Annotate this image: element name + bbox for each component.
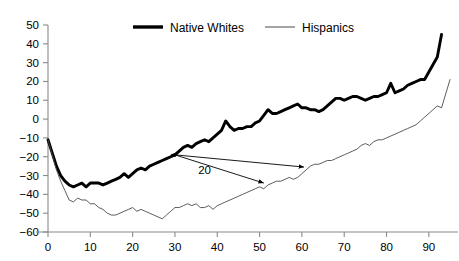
x-tick-label: 90 — [422, 241, 435, 253]
x-tick-label: 30 — [169, 241, 182, 253]
x-tick-label: 20 — [126, 241, 139, 253]
annotation-group: 20 — [175, 155, 304, 183]
y-tick-label: 50 — [26, 19, 39, 31]
chart-container: −60−50−40−30−20−1001020304050 0102030405… — [0, 0, 459, 261]
legend-label-1: Native Whites — [170, 21, 244, 35]
y-axis: −60−50−40−30−20−1001020304050 — [19, 19, 48, 238]
y-tick-label: −40 — [19, 188, 39, 200]
x-tick-label: 80 — [380, 241, 393, 253]
x-axis-ticks: 0102030405060708090 — [45, 232, 435, 253]
x-tick-label: 40 — [211, 241, 224, 253]
annotation-label: 20 — [198, 164, 211, 176]
x-tick-label: 70 — [338, 241, 351, 253]
chart-legend: Native WhitesHispanics — [133, 21, 354, 35]
x-tick-label: 50 — [253, 241, 266, 253]
y-axis-ticks: −60−50−40−30−20−1001020304050 — [19, 19, 48, 238]
x-tick-label: 60 — [295, 241, 308, 253]
series-line-2 — [48, 80, 450, 219]
y-tick-label: 30 — [26, 57, 39, 69]
x-axis: 0102030405060708090 — [36, 232, 458, 253]
y-tick-label: −30 — [19, 170, 39, 182]
y-tick-label: 20 — [26, 75, 39, 87]
x-tick-label: 0 — [45, 241, 51, 253]
y-tick-label: 10 — [26, 94, 39, 106]
legend-label-2: Hispanics — [302, 21, 354, 35]
data-series-group — [48, 34, 450, 218]
y-tick-label: 0 — [33, 113, 39, 125]
x-tick-label: 10 — [84, 241, 97, 253]
y-tick-label: −10 — [19, 132, 39, 144]
line-chart: −60−50−40−30−20−1001020304050 0102030405… — [0, 0, 459, 261]
series-line-1 — [48, 34, 442, 186]
y-tick-label: −50 — [19, 207, 39, 219]
y-tick-label: −20 — [19, 151, 39, 163]
y-tick-label: 40 — [26, 38, 39, 50]
